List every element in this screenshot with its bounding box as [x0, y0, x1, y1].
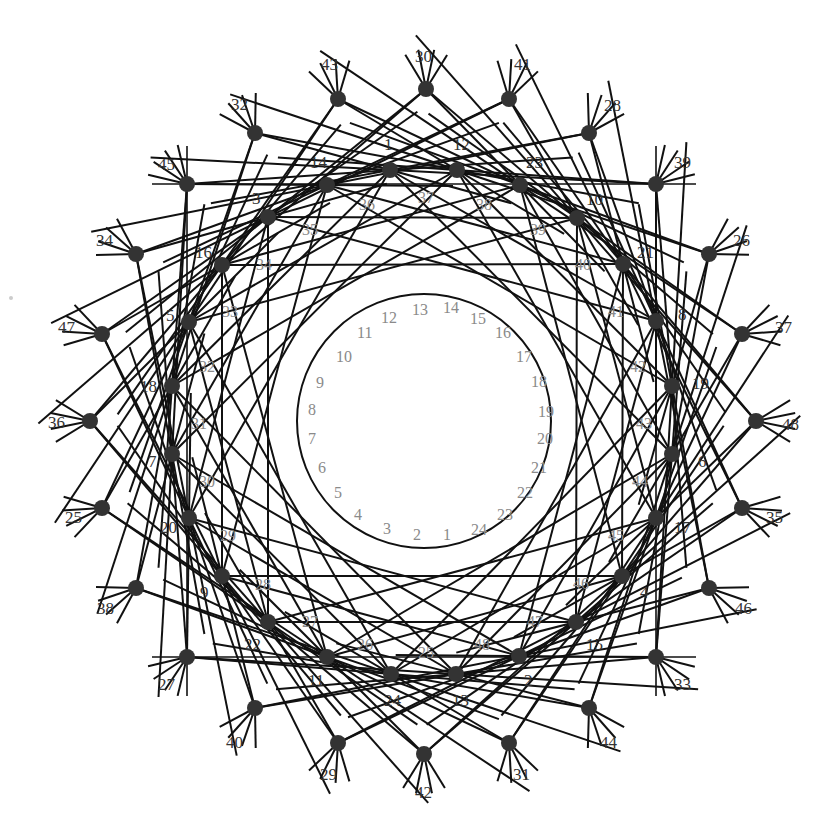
- vertex-dot: [511, 648, 527, 664]
- vertex-dot: [82, 413, 98, 429]
- vertex-dot: [418, 81, 434, 97]
- chord-line: [151, 157, 656, 184]
- vertex-label: 26: [733, 231, 750, 250]
- inner-circle-label: 18: [531, 373, 547, 390]
- vertex-label: 43: [321, 55, 338, 74]
- inner-circle-label: 21: [531, 459, 547, 476]
- inner-circle-label: 6: [318, 459, 326, 476]
- inner-circle-label: 10: [336, 348, 352, 365]
- vertex-dot: [449, 162, 465, 178]
- vertex-label: 23: [526, 153, 543, 172]
- vertex-label: 42: [415, 783, 432, 802]
- vertex-label: 24: [384, 691, 402, 710]
- chord-line: [391, 386, 672, 674]
- chord-line: [55, 99, 338, 523]
- inner-circle-label: 4: [354, 506, 362, 523]
- vertex-dot: [416, 746, 432, 762]
- vertex-label: 15: [586, 635, 603, 654]
- intersection-label: 25: [418, 644, 434, 661]
- vertex-label: 21: [637, 243, 654, 262]
- vertex-dot: [701, 580, 717, 596]
- intersection-label: 41: [608, 303, 624, 320]
- inner-circle-label: 7: [308, 430, 316, 447]
- inner-circle-label: 20: [537, 430, 553, 447]
- vertex-dot: [648, 649, 664, 665]
- vertex-dot: [94, 500, 110, 516]
- vertex-dot: [181, 314, 197, 330]
- vertex-label: 3: [252, 189, 261, 208]
- vertex-label: 41: [514, 55, 531, 74]
- vertex-dot: [260, 614, 276, 630]
- inner-circle-label: 16: [495, 324, 511, 341]
- vertex-dot: [319, 177, 335, 193]
- vertex-dot: [181, 510, 197, 526]
- intersection-label: 29: [220, 527, 236, 544]
- vertex-dot: [615, 256, 631, 272]
- vertex-label: 1: [384, 135, 393, 154]
- vertex-label: 10: [586, 190, 603, 209]
- vertex-dot: [734, 500, 750, 516]
- vertex-label: 18: [140, 377, 157, 396]
- vertex-label: 20: [160, 518, 177, 537]
- intersection-label: 34: [256, 256, 272, 273]
- vertex-label: 29: [320, 765, 337, 784]
- vertex-label: 14: [310, 153, 328, 172]
- vertex-dot: [448, 666, 464, 682]
- vertex-label: 11: [308, 671, 324, 690]
- vertex-label: 12: [453, 135, 470, 154]
- inner-circle-label: 12: [381, 309, 397, 326]
- intersection-label: 42: [630, 358, 646, 375]
- vertex-dot: [94, 326, 110, 342]
- intersection-label: 30: [199, 473, 215, 490]
- inner-circle-label: 3: [383, 520, 391, 537]
- vertex-label: 40: [226, 733, 243, 752]
- intersection-label: 47: [527, 613, 543, 630]
- vertex-dot: [247, 125, 263, 141]
- intersection-label: 36: [359, 196, 375, 213]
- vertex-label: 22: [244, 635, 261, 654]
- vertex-label: 31: [513, 765, 530, 784]
- vertex-label: 6: [698, 452, 707, 471]
- vertex-dot: [330, 735, 346, 751]
- vertex-dot: [569, 210, 585, 226]
- vertex-label: 47: [58, 318, 76, 337]
- chord-line: [509, 316, 788, 744]
- chord-line: [416, 35, 756, 421]
- vertex-dot: [501, 735, 517, 751]
- vertex-dot: [648, 510, 664, 526]
- intersection-label: 32: [199, 358, 215, 375]
- chord-line: [639, 254, 709, 634]
- chord-line: [172, 454, 519, 656]
- vertex-label: 48: [782, 415, 799, 434]
- vertex-label: 4: [640, 583, 649, 602]
- vertex-dot: [260, 209, 276, 225]
- intersection-label: 48: [474, 636, 490, 653]
- vertex-dot: [179, 176, 195, 192]
- inner-circle-label: 17: [516, 348, 532, 365]
- chord-line: [327, 454, 672, 657]
- vertex-dot: [214, 257, 230, 273]
- stray-mark: [9, 296, 13, 300]
- vertex-label: 45: [158, 155, 175, 174]
- intersection-label: 31: [191, 415, 207, 432]
- vertex-dot: [701, 246, 717, 262]
- vertex-dot: [164, 446, 180, 462]
- vertex-dot: [581, 700, 597, 716]
- vertex-dot: [614, 568, 630, 584]
- intersection-label: 44: [632, 473, 648, 490]
- intersection-label: 40: [575, 256, 591, 273]
- intersection-label: 26: [357, 636, 373, 653]
- inner-circle-label: 9: [316, 374, 324, 391]
- vertex-label: 25: [65, 508, 82, 527]
- inner-circle-label: 19: [538, 403, 554, 420]
- chord-line: [338, 578, 682, 743]
- vertex-label: 33: [674, 675, 691, 694]
- intersection-label: 39: [530, 221, 546, 238]
- inner-circle-label: 8: [308, 401, 316, 418]
- vertex-dot: [664, 378, 680, 394]
- vertex-label: 44: [600, 733, 618, 752]
- vertex-label: 36: [48, 413, 65, 432]
- intersection-label: 37: [418, 189, 434, 206]
- line-arrangement-diagram: 3041283926374835463344314229402738253647…: [0, 0, 840, 832]
- vertex-dot: [648, 176, 664, 192]
